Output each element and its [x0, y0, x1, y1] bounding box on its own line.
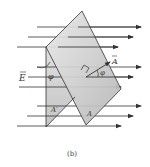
figure-caption: (b) — [67, 150, 77, 158]
angle-label-right: φ — [100, 69, 105, 77]
flux-diagram: E φ φ A A′ A (b) — [0, 0, 150, 167]
surface-area-label: A — [86, 110, 92, 118]
area-vector-label: A — [111, 57, 118, 66]
field-label: E — [18, 73, 26, 83]
angle-label-left: φ — [48, 72, 54, 81]
projected-area-label: A′ — [50, 106, 58, 114]
